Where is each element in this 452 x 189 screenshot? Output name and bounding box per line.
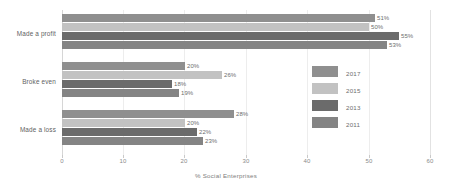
legend-item-2017[interactable]: 2017 — [312, 66, 396, 79]
category-label-made-a-loss: Made a loss — [20, 126, 56, 133]
legend-item-2011[interactable]: 2011 — [312, 117, 396, 130]
category-group-made-a-profit: Made a profit 51% 50% 55% 53% — [62, 13, 430, 53]
bar-2013-made-a-profit — [62, 32, 399, 40]
bar-row: 23% — [62, 137, 203, 145]
bar-2011-made-a-loss — [62, 137, 203, 145]
bar-value-label: 19% — [181, 90, 193, 96]
bar-chart: 0 10 20 30 40 50 60 % Social Enterprises… — [0, 0, 452, 189]
bar-2017-broke-even — [62, 62, 185, 70]
x-tick-label-20: 20 — [180, 158, 187, 164]
bar-value-label: 23% — [205, 138, 217, 144]
category-label-made-a-profit: Made a profit — [17, 30, 56, 37]
bar-row: 51% — [62, 14, 375, 22]
x-tick-label-10: 10 — [119, 158, 126, 164]
bar-value-label: 26% — [224, 72, 236, 78]
bar-row: 53% — [62, 41, 387, 49]
bar-value-label: 53% — [389, 42, 401, 48]
legend-label-2017: 2017 — [346, 69, 361, 76]
bar-2013-made-a-loss — [62, 128, 197, 136]
legend-label-2013: 2013 — [346, 103, 361, 110]
x-tick-label-40: 40 — [303, 158, 310, 164]
legend-item-2015[interactable]: 2015 — [312, 83, 396, 96]
bar-row: 22% — [62, 128, 197, 136]
bar-row: 19% — [62, 89, 179, 97]
bar-value-label: 20% — [187, 120, 199, 126]
bar-value-label: 18% — [174, 81, 186, 87]
x-tick-label-0: 0 — [60, 158, 64, 164]
x-tick-label-50: 50 — [365, 158, 372, 164]
bar-row: 18% — [62, 80, 172, 88]
bar-value-label: 28% — [236, 111, 248, 117]
bar-2013-broke-even — [62, 80, 172, 88]
legend: 2017 2015 2013 2011 — [312, 66, 396, 134]
bar-row: 50% — [62, 23, 369, 31]
legend-item-2013[interactable]: 2013 — [312, 100, 396, 113]
bar-value-label: 20% — [187, 63, 199, 69]
bar-row: 55% — [62, 32, 399, 40]
x-axis-title: % Social Enterprises — [0, 172, 452, 179]
x-tick-label-30: 30 — [242, 158, 249, 164]
bar-2011-made-a-profit — [62, 41, 387, 49]
bar-value-label: 51% — [377, 15, 389, 21]
bar-row: 20% — [62, 119, 185, 127]
bar-value-label: 50% — [371, 24, 383, 30]
legend-swatch-2015 — [312, 83, 338, 94]
bar-2015-broke-even — [62, 71, 222, 79]
legend-swatch-2013 — [312, 100, 338, 111]
legend-label-2011: 2011 — [346, 120, 360, 127]
bar-row: 28% — [62, 110, 234, 118]
bar-2015-made-a-profit — [62, 23, 369, 31]
bar-value-label: 22% — [199, 129, 211, 135]
bar-row: 26% — [62, 71, 222, 79]
bar-2015-made-a-loss — [62, 119, 185, 127]
category-label-broke-even: Broke even — [22, 78, 56, 85]
x-tick-label-60: 60 — [426, 158, 433, 164]
legend-label-2015: 2015 — [346, 86, 361, 93]
legend-swatch-2017 — [312, 66, 338, 77]
legend-swatch-2011 — [312, 117, 338, 128]
bar-2017-made-a-profit — [62, 14, 375, 22]
bar-row: 20% — [62, 62, 185, 70]
bar-2017-made-a-loss — [62, 110, 234, 118]
bar-2011-broke-even — [62, 89, 179, 97]
plot-right-border — [430, 10, 431, 155]
bar-value-label: 55% — [401, 33, 413, 39]
